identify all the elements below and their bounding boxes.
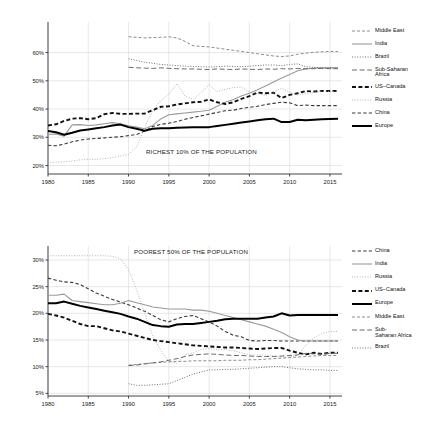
svg-text:1985: 1985 xyxy=(82,179,95,185)
svg-text:2000: 2000 xyxy=(203,401,216,407)
legend-item[interactable]: Brazil xyxy=(352,343,412,352)
legend-item[interactable]: Europe xyxy=(352,121,408,130)
legend-item[interactable]: China xyxy=(352,246,412,255)
legend-item-label: India xyxy=(375,259,387,266)
legend-item[interactable]: Middle East xyxy=(352,26,408,35)
legend-item-label: Middle East xyxy=(375,26,404,33)
legend-item[interactable]: China xyxy=(352,108,408,117)
legend-item-label: China xyxy=(375,108,390,115)
svg-text:10%: 10% xyxy=(32,364,44,370)
legend-line-swatch xyxy=(352,343,372,352)
legend-item-label: Sub-Saharan Africa xyxy=(375,65,408,78)
legend-item-label: US–Canada xyxy=(375,82,405,89)
chart-panel-richest: 20%30%40%50%60%1980198519901995200020052… xyxy=(0,0,429,222)
legend-item-label: Brazil xyxy=(375,52,389,59)
svg-text:1980: 1980 xyxy=(42,401,55,407)
legend-line-swatch xyxy=(352,52,372,61)
svg-text:1995: 1995 xyxy=(162,179,175,185)
legend-item[interactable]: Russia xyxy=(352,95,408,104)
legend-line-swatch xyxy=(352,246,372,255)
svg-text:1990: 1990 xyxy=(122,401,135,407)
legend-item[interactable]: Brazil xyxy=(352,52,408,61)
svg-text:2005: 2005 xyxy=(243,179,256,185)
svg-text:1985: 1985 xyxy=(82,401,95,407)
panel-title-richest: RICHEST 10% OF THE POPULATION xyxy=(146,148,257,155)
svg-text:2000: 2000 xyxy=(203,179,216,185)
legend-line-swatch xyxy=(352,121,372,130)
legend-item[interactable]: US–Canada xyxy=(352,286,412,295)
svg-text:15%: 15% xyxy=(32,337,44,343)
svg-text:1990: 1990 xyxy=(122,179,135,185)
legend-item[interactable]: Russia xyxy=(352,272,412,281)
legend-item[interactable]: Sub-Saharan Africa xyxy=(352,65,408,78)
svg-text:2015: 2015 xyxy=(323,401,336,407)
svg-text:20%: 20% xyxy=(32,163,44,169)
legend-richest: Middle EastIndiaBrazilSub-Saharan Africa… xyxy=(352,26,408,134)
legend-line-swatch xyxy=(352,312,372,321)
legend-line-swatch xyxy=(352,325,372,334)
legend-item-label: US–Canada xyxy=(375,286,405,293)
legend-line-swatch xyxy=(352,286,372,295)
svg-text:5%: 5% xyxy=(36,390,44,396)
legend-line-swatch xyxy=(352,272,372,281)
legend-line-swatch xyxy=(352,108,372,117)
legend-item[interactable]: US–Canada xyxy=(352,82,408,91)
svg-text:30%: 30% xyxy=(32,257,44,263)
legend-item[interactable]: India xyxy=(352,39,408,48)
legend-item-label: Sub- Saharan Africa xyxy=(375,325,412,338)
legend-item-label: Russia xyxy=(375,272,392,279)
legend-item[interactable]: India xyxy=(352,259,412,268)
legend-item-label: Brazil xyxy=(375,343,389,350)
legend-line-swatch xyxy=(352,82,372,91)
legend-item-label: Middle East xyxy=(375,312,404,319)
svg-text:2010: 2010 xyxy=(283,401,296,407)
svg-text:25%: 25% xyxy=(32,284,44,290)
legend-line-swatch xyxy=(352,95,372,104)
legend-item-label: India xyxy=(375,39,387,46)
legend-line-swatch xyxy=(352,65,372,74)
legend-line-swatch xyxy=(352,39,372,48)
legend-poorest: ChinaIndiaRussiaUS–CanadaEuropeMiddle Ea… xyxy=(352,246,412,356)
legend-line-swatch xyxy=(352,299,372,308)
svg-text:1995: 1995 xyxy=(162,401,175,407)
svg-text:2015: 2015 xyxy=(323,179,336,185)
legend-item[interactable]: Europe xyxy=(352,299,412,308)
svg-text:40%: 40% xyxy=(32,106,44,112)
legend-item[interactable]: Middle East xyxy=(352,312,412,321)
svg-text:60%: 60% xyxy=(32,50,44,56)
legend-item-label: Europe xyxy=(375,299,393,306)
legend-item-label: China xyxy=(375,246,390,253)
panel-title-poorest: POOREST 50% OF THE POPULATION xyxy=(134,248,248,255)
svg-text:30%: 30% xyxy=(32,134,44,140)
legend-line-swatch xyxy=(352,26,372,35)
svg-text:2005: 2005 xyxy=(243,401,256,407)
svg-text:20%: 20% xyxy=(32,310,44,316)
legend-item-label: Russia xyxy=(375,95,392,102)
svg-text:2010: 2010 xyxy=(283,179,296,185)
legend-item[interactable]: Sub- Saharan Africa xyxy=(352,325,412,338)
legend-item-label: Europe xyxy=(375,121,393,128)
legend-line-swatch xyxy=(352,259,372,268)
chart-panel-poorest: 5%10%15%20%25%30%19801985199019952000200… xyxy=(0,222,429,444)
svg-text:1980: 1980 xyxy=(42,179,55,185)
svg-text:50%: 50% xyxy=(32,78,44,84)
